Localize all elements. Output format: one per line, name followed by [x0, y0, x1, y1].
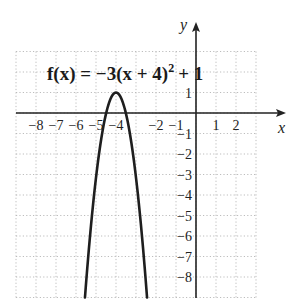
y-tick-label: −6	[177, 229, 192, 244]
y-tick-label: −7	[177, 250, 192, 265]
parabola-chart: −8−7−6−5−4−2−112 1−1−2−3−4−5−6−7−8 x y f…	[0, 0, 297, 304]
x-axis-label: x	[277, 119, 285, 136]
x-tick-label: −2	[149, 118, 164, 133]
x-tick-labels: −8−7−6−5−4−2−112	[29, 118, 240, 133]
x-tick-label: −8	[29, 118, 44, 133]
y-tick-label: −1	[177, 127, 192, 142]
title-function: f(x) = −3(x + 4)	[47, 63, 168, 85]
chart-title: f(x) = −3(x + 4)2+ 1	[47, 61, 203, 85]
title-tail: + 1	[178, 63, 203, 84]
x-tick-label: −4	[109, 118, 124, 133]
y-tick-label: −5	[177, 209, 192, 224]
y-tick-label: 1	[185, 86, 192, 101]
x-tick-label: −5	[89, 118, 104, 133]
title-exponent: 2	[168, 61, 174, 75]
y-tick-label: −2	[177, 147, 192, 162]
x-tick-label: −6	[69, 118, 84, 133]
y-axis-label: y	[178, 16, 188, 34]
y-tick-label: −4	[177, 188, 192, 203]
x-tick-label: −7	[49, 118, 64, 133]
y-tick-label: −8	[177, 270, 192, 285]
y-tick-label: −3	[177, 168, 192, 183]
x-tick-label: 1	[213, 118, 220, 133]
x-tick-label: 2	[233, 118, 240, 133]
y-tick-labels: 1−1−2−3−4−5−6−7−8	[177, 86, 192, 286]
